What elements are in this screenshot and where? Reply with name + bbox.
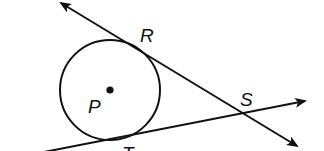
label-t: T	[122, 143, 135, 151]
tangent-line-rs	[61, 3, 297, 146]
center-point-p	[106, 86, 113, 93]
label-s: S	[240, 89, 253, 110]
tangent-circle-diagram: R S P T	[0, 0, 324, 151]
label-p: P	[88, 96, 101, 117]
label-r: R	[140, 25, 154, 46]
